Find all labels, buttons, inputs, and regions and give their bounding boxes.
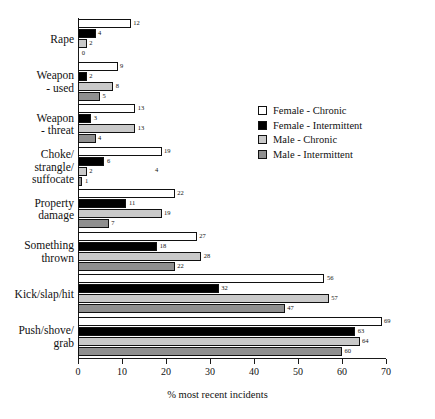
bar-value-label: 22 bbox=[177, 188, 184, 198]
bar-row: 47 bbox=[78, 304, 386, 313]
bar-value-label: 69 bbox=[384, 316, 391, 326]
bar-row: 2 bbox=[78, 72, 386, 81]
bar-group: 9285 bbox=[78, 62, 386, 102]
x-tick bbox=[122, 359, 123, 364]
x-tick-label: 30 bbox=[205, 366, 215, 377]
bar-value-label: 11 bbox=[129, 198, 135, 208]
legend-item: Female - Chronic bbox=[258, 104, 428, 117]
bar-value-label: 4 bbox=[98, 28, 101, 38]
bar-row: 28 bbox=[78, 252, 386, 261]
x-tick bbox=[78, 359, 79, 364]
bar bbox=[78, 62, 118, 71]
x-tick bbox=[342, 359, 343, 364]
bar bbox=[78, 327, 355, 336]
bar-row: 7 bbox=[78, 219, 386, 228]
bar bbox=[78, 242, 157, 251]
legend-swatch bbox=[258, 150, 267, 159]
bar bbox=[78, 39, 87, 48]
category-label: Rape bbox=[2, 33, 74, 46]
bar bbox=[78, 114, 91, 123]
bar-value-label: 56 bbox=[327, 273, 334, 283]
x-axis-line bbox=[78, 358, 386, 359]
bar bbox=[78, 274, 324, 283]
bar bbox=[78, 72, 87, 81]
chart-figure: RapeWeapon - usedWeapon - threatChoke/ s… bbox=[0, 0, 435, 419]
category-label: Kick/slap/hit bbox=[2, 288, 74, 301]
bar-row: 0 bbox=[78, 49, 386, 58]
legend-swatch bbox=[258, 135, 267, 144]
bar-group: 12420 bbox=[78, 19, 386, 59]
bar bbox=[78, 167, 87, 176]
legend-label: Female - Intermittent bbox=[273, 120, 362, 131]
bar-value-label: 4 bbox=[98, 133, 101, 143]
x-tick-label: 10 bbox=[117, 366, 127, 377]
category-axis-labels: RapeWeapon - usedWeapon - threatChoke/ s… bbox=[0, 18, 74, 358]
bar bbox=[78, 19, 131, 28]
legend-item: Female - Intermittent bbox=[258, 119, 428, 132]
bar-group: 2211197 bbox=[78, 189, 386, 229]
plot-area: 010203040506070 124209285133134196212211… bbox=[78, 18, 386, 358]
bar bbox=[78, 29, 96, 38]
bar-value-label: 6 bbox=[107, 156, 110, 166]
bar bbox=[78, 124, 135, 133]
bar bbox=[78, 232, 197, 241]
bar bbox=[78, 209, 162, 218]
bar bbox=[78, 262, 175, 271]
bar bbox=[78, 147, 162, 156]
category-label: Push/shove/ grab bbox=[2, 324, 74, 349]
bar bbox=[78, 92, 100, 101]
chart-legend: Female - ChronicFemale - IntermittentMal… bbox=[258, 104, 428, 162]
bar-row: 27 bbox=[78, 232, 386, 241]
bar-value-label: 2 bbox=[89, 71, 92, 81]
bar bbox=[78, 134, 96, 143]
bar-value-label: 13 bbox=[138, 123, 145, 133]
x-tick bbox=[298, 359, 299, 364]
bar-row: 9 bbox=[78, 62, 386, 71]
bar-value-label: 13 bbox=[138, 103, 145, 113]
x-tick bbox=[210, 359, 211, 364]
bar-value-label: 63 bbox=[358, 326, 365, 336]
bar-row: 32 bbox=[78, 284, 386, 293]
bar-group: 56325747 bbox=[78, 274, 386, 314]
x-tick-label: 0 bbox=[76, 366, 81, 377]
legend-swatch bbox=[258, 106, 267, 115]
bar-row: 64 bbox=[78, 337, 386, 346]
bar-row: 22 bbox=[78, 262, 386, 271]
bar-value-label: 12 bbox=[133, 18, 140, 28]
bar-value-label: 7 bbox=[111, 218, 114, 228]
bar bbox=[78, 189, 175, 198]
x-axis-title: % most recent incidents bbox=[0, 389, 435, 400]
bar bbox=[78, 337, 360, 346]
bar-value-label: 57 bbox=[331, 293, 338, 303]
bar-row: 4 bbox=[78, 29, 386, 38]
bar bbox=[78, 104, 135, 113]
bar-group: 27182822 bbox=[78, 232, 386, 272]
bar bbox=[78, 177, 82, 186]
bar-row: 1 bbox=[78, 177, 386, 186]
category-label: Property damage bbox=[2, 197, 74, 222]
x-tick bbox=[386, 359, 387, 364]
bar-value-label: 47 bbox=[287, 303, 294, 313]
bar bbox=[78, 317, 382, 326]
bar bbox=[78, 219, 109, 228]
legend-label: Female - Chronic bbox=[273, 105, 346, 116]
bar bbox=[78, 199, 126, 208]
bar bbox=[78, 304, 285, 313]
bar-row: 57 bbox=[78, 294, 386, 303]
category-label: Choke/ strangle/ suffocate bbox=[2, 148, 74, 186]
bar-row: 18 bbox=[78, 242, 386, 251]
x-tick bbox=[254, 359, 255, 364]
bar bbox=[78, 294, 329, 303]
x-tick-label: 70 bbox=[381, 366, 391, 377]
bar-value-label: 19 bbox=[164, 208, 171, 218]
bar bbox=[78, 82, 113, 91]
bar-value-label: 18 bbox=[160, 241, 167, 251]
bar-value-label: 27 bbox=[199, 231, 206, 241]
bar-row: 60 bbox=[78, 347, 386, 356]
x-tick-label: 40 bbox=[249, 366, 259, 377]
x-tick-label: 20 bbox=[161, 366, 171, 377]
bar-value-label: 19 bbox=[164, 146, 171, 156]
bar bbox=[78, 252, 201, 261]
bar-row: 5 bbox=[78, 92, 386, 101]
bar-row: 56 bbox=[78, 274, 386, 283]
